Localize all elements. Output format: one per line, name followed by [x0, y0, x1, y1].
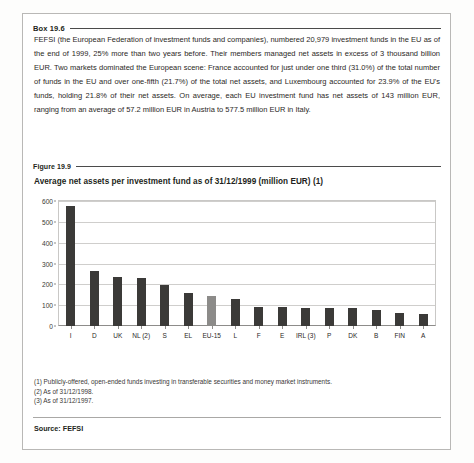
x-tick-label: A	[421, 332, 425, 339]
x-tick-mark	[306, 326, 307, 329]
y-tick-mark	[54, 305, 56, 306]
y-tick-mark	[54, 221, 56, 222]
bar-chart: 0100200300400500600 IDUKNL (2)SELEU-15LF…	[34, 196, 438, 352]
y-tick-mark	[54, 201, 56, 202]
x-tick-label: NL (2)	[132, 332, 150, 339]
x-tick-label: DK	[348, 332, 357, 339]
x-tick-mark	[400, 326, 401, 329]
y-tick-mark	[54, 326, 56, 327]
x-tick-label: UK	[113, 332, 122, 339]
x-tick-mark	[259, 326, 260, 329]
footnote-3: (3) As of 31/12/1997.	[34, 396, 440, 406]
figure-header-rule	[76, 166, 441, 167]
bar	[301, 308, 310, 326]
x-tick-label: D	[92, 332, 97, 339]
x-tick-mark	[118, 326, 119, 329]
x-tick-label: EU-15	[203, 332, 221, 339]
x-tick-label: P	[327, 332, 331, 339]
figure-header: Figure 19.9	[33, 160, 441, 172]
x-tick-mark	[71, 326, 72, 329]
box-header-rule	[70, 28, 441, 29]
x-tick-mark	[141, 326, 142, 329]
x-tick-mark	[188, 326, 189, 329]
x-tick-mark	[329, 326, 330, 329]
y-tick-mark	[54, 284, 56, 285]
x-tick-mark	[282, 326, 283, 329]
bar	[231, 299, 240, 326]
bar	[419, 314, 428, 326]
x-tick-mark	[165, 326, 166, 329]
footnotes: (1) Publicly-offered, open-ended funds i…	[34, 377, 440, 406]
x-tick-label: L	[233, 332, 237, 339]
x-tick-label: E	[280, 332, 284, 339]
footnote-2: (2) As of 31/12/1998.	[34, 387, 440, 397]
x-axis: IDUKNL (2)SELEU-15LFEIRL (3)PDKBFINA	[59, 329, 435, 345]
y-tick-label: 200	[42, 281, 53, 288]
y-tick-label: 0	[49, 323, 53, 330]
bar	[113, 277, 122, 326]
x-tick-label: S	[163, 332, 167, 339]
box-label: Box 19.6	[33, 24, 70, 33]
x-tick-label: EL	[184, 332, 192, 339]
x-tick-label: B	[374, 332, 378, 339]
x-tick-label: FIN	[395, 332, 405, 339]
x-tick-mark	[212, 326, 213, 329]
bar	[184, 293, 193, 326]
y-tick-label: 600	[42, 198, 53, 205]
bar	[137, 278, 146, 326]
source-label: Source: FEFSI	[34, 424, 83, 433]
figure-page: Box 19.6 FEFSI (the European Federation …	[0, 0, 474, 463]
bar	[160, 285, 169, 326]
x-tick-mark	[235, 326, 236, 329]
figure-label: Figure 19.9	[33, 163, 76, 170]
bar	[90, 271, 99, 326]
y-tick-label: 300	[42, 260, 53, 267]
bar	[66, 206, 75, 326]
y-tick-label: 100	[42, 302, 53, 309]
source-rule	[33, 417, 441, 418]
bar	[278, 307, 287, 326]
y-tick-mark	[54, 263, 56, 264]
bar	[325, 308, 334, 326]
bar	[395, 313, 404, 326]
bar	[372, 310, 381, 326]
y-axis: 0100200300400500600	[34, 196, 56, 330]
x-tick-mark	[94, 326, 95, 329]
x-tick-label: F	[257, 332, 261, 339]
bar	[254, 307, 263, 326]
y-tick-label: 500	[42, 218, 53, 225]
box-paragraph: FEFSI (the European Federation of invest…	[34, 33, 440, 116]
x-tick-mark	[423, 326, 424, 329]
figure-title: Average net assets per investment fund a…	[34, 177, 440, 186]
x-tick-label: IRL (3)	[296, 332, 316, 339]
y-tick-mark	[54, 242, 56, 243]
x-tick-label: I	[70, 332, 72, 339]
bar-series	[59, 201, 435, 326]
bar	[348, 308, 357, 326]
x-tick-mark	[353, 326, 354, 329]
footnote-1: (1) Publicly-offered, open-ended funds i…	[34, 377, 440, 387]
x-tick-mark	[376, 326, 377, 329]
y-tick-label: 400	[42, 239, 53, 246]
bar	[207, 296, 216, 326]
